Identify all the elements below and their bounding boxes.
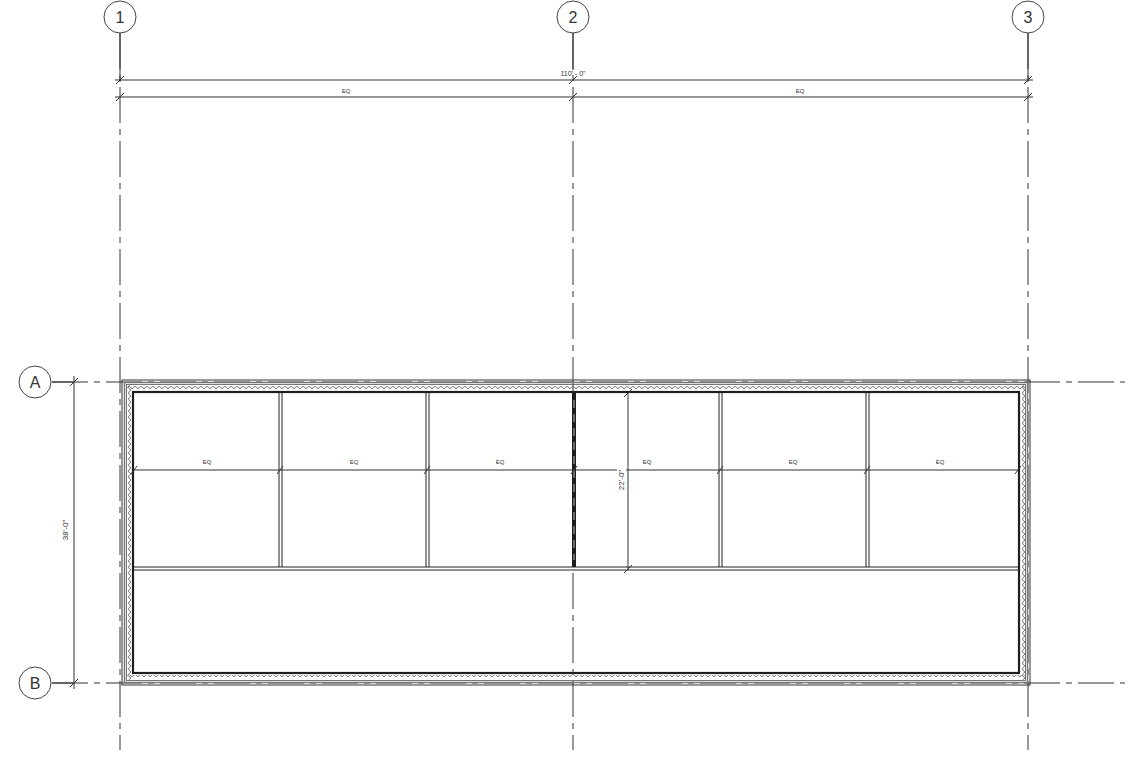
grid-label-B: B [30,675,41,692]
overall-depth-dimension[interactable]: 38'-0" [61,376,78,689]
grid-bubble-1[interactable]: 1 [104,1,136,33]
grid-bubble-A[interactable]: A [19,366,51,398]
room-eq-label-1: EQ [203,459,212,465]
room-eq-label-3: EQ [496,459,505,465]
eq-label-right: EQ [796,88,805,94]
room-depth-label: 22'-0" [617,470,626,491]
eq-label-left: EQ [342,88,351,94]
grid-bubbles: 1 2 3 A B [19,1,1044,699]
partition-4 [719,393,722,567]
partition-5 [866,393,869,567]
grid-label-3: 3 [1024,9,1033,26]
partition-3-core [572,393,576,567]
room-partitions [134,393,1018,570]
overall-width-dimension[interactable]: 110' - 0" [115,70,1033,84]
grid-bubble-2[interactable]: 2 [557,1,589,33]
room-eq-label-4: EQ [643,459,652,465]
room-eq-label-2: EQ [350,459,359,465]
room-eq-label-5: EQ [789,459,798,465]
grid-label-2: 2 [569,9,578,26]
room-eq-label-6: EQ [936,459,945,465]
grid-label-1: 1 [116,9,125,26]
grid-bubble-B[interactable]: B [19,667,51,699]
grid-bubble-3[interactable]: 3 [1012,1,1044,33]
partition-2 [426,393,429,567]
half-bay-dimension[interactable]: EQ EQ [115,88,1033,101]
partition-1 [279,393,282,567]
overall-depth-label: 38'-0" [61,520,70,541]
room-depth-dimension[interactable]: 22'-0" [617,389,632,573]
overall-width-label: 110' - 0" [560,70,586,77]
floor-plan-drawing: 1 2 3 A B 110' - 0" EQ EQ [0,0,1139,766]
grid-label-A: A [30,374,41,391]
